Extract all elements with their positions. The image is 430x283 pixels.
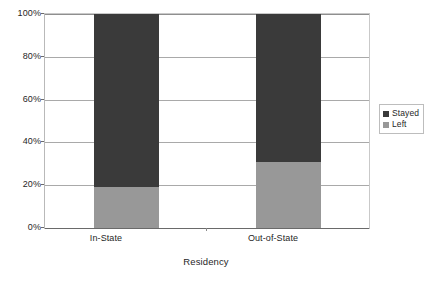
bar-segment-out-of-state-left[interactable] bbox=[256, 162, 321, 228]
x-tick-mark-center bbox=[206, 228, 207, 231]
y-axis: 100% 80% 60% 40% 20% 0% bbox=[0, 13, 41, 227]
legend-label-left: Left bbox=[392, 120, 407, 129]
y-tick-label-100: 100% bbox=[3, 9, 41, 18]
plot-area bbox=[44, 13, 370, 229]
chart-legend: Stayed Left bbox=[379, 104, 424, 134]
bar-group-in-state[interactable] bbox=[94, 14, 159, 228]
x-category-label-in-state: In-State bbox=[56, 233, 156, 243]
chart-container: 100% 80% 60% 40% 20% 0% In-State O bbox=[0, 0, 430, 283]
y-tick-label-20: 20% bbox=[3, 180, 41, 189]
bar-segment-in-state-left[interactable] bbox=[94, 187, 159, 228]
y-tick-label-80: 80% bbox=[3, 52, 41, 61]
legend-item-stayed[interactable]: Stayed bbox=[383, 108, 419, 119]
bar-group-out-of-state[interactable] bbox=[256, 14, 321, 228]
legend-swatch-stayed-icon bbox=[383, 111, 389, 117]
y-tick-label-60: 60% bbox=[3, 95, 41, 104]
y-tick-label-0: 0% bbox=[3, 223, 41, 232]
y-tick-label-40: 40% bbox=[3, 137, 41, 146]
legend-item-left[interactable]: Left bbox=[383, 119, 419, 130]
legend-swatch-left-icon bbox=[383, 122, 389, 128]
x-category-label-out-of-state: Out-of-State bbox=[208, 233, 338, 243]
bar-segment-out-of-state-stayed[interactable] bbox=[256, 14, 321, 162]
gridline-0 bbox=[45, 228, 369, 229]
legend-label-stayed: Stayed bbox=[392, 109, 419, 118]
x-axis-title: Residency bbox=[44, 256, 368, 267]
bar-segment-in-state-stayed[interactable] bbox=[94, 14, 159, 187]
